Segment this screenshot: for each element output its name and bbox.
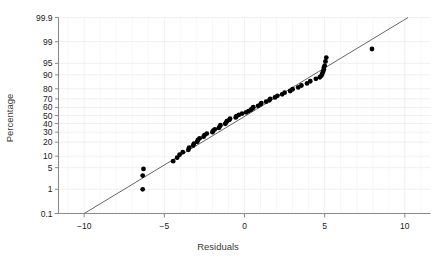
normal-probability-plot: 99.99995908070605040302010510.1 −10−5051… [0,0,438,258]
data-point [290,87,295,92]
data-point [268,96,273,101]
data-point [140,187,145,192]
y-axis-tick-label: 99.9 [36,13,53,23]
y-axis-tick-label: 99 [43,37,53,47]
data-point [259,101,264,106]
data-point [204,131,209,136]
y-axis-tick-label: 90 [43,70,53,80]
y-axis-tick-label: 20 [43,137,53,147]
y-axis-tick-label: 30 [43,127,53,137]
x-axis-tick-label: 5 [322,221,327,231]
data-point [322,63,327,68]
y-axis-tick-label: 95 [43,58,53,68]
x-axis-tick-label: 0 [242,221,247,231]
data-point [228,116,233,121]
data-point [282,90,287,95]
y-axis-tick-label: 5 [48,163,53,173]
x-axis-tick-labels: −10−50510 [77,221,410,231]
x-axis-tick-label: −5 [159,221,169,231]
major-gridlines [59,18,431,214]
x-axis-tick-label: 10 [400,221,410,231]
data-point [251,105,256,110]
data-point [299,83,304,88]
data-point [324,55,329,60]
data-point [275,93,280,98]
data-point [370,47,375,52]
x-axis-title: Residuals [197,241,239,252]
data-point [308,79,313,84]
data-points-group [140,47,374,192]
data-point [140,173,145,178]
y-axis-title: Percentage [4,94,15,143]
y-axis-tick-label: 10 [43,151,53,161]
data-point [218,123,223,128]
data-point [180,150,185,155]
y-axis-tick-label: 0.1 [41,209,53,219]
x-axis-tick-label: −10 [77,221,92,231]
data-point [141,167,146,172]
data-point [171,159,176,164]
y-axis-tick-labels: 99.99995908070605040302010510.1 [36,13,53,219]
y-axis-tick-label: 80 [43,84,53,94]
y-axis-tick-label: 1 [48,184,53,194]
chart-canvas: 99.99995908070605040302010510.1 −10−5051… [0,0,438,258]
